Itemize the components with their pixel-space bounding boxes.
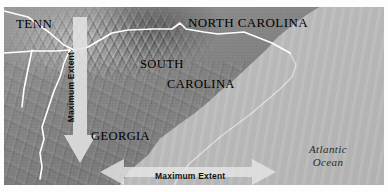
label-south-carolina-2: CAROLINA: [167, 77, 235, 92]
label-north-carolina: NORTH CAROLINA: [188, 15, 308, 31]
label-georgia: GEORGIA: [91, 129, 150, 144]
vertical-extent-label: Maximum Extent: [66, 52, 76, 122]
map-canvas: TENN NORTH CAROLINA SOUTH CAROLINA GEORG…: [4, 7, 384, 185]
label-south-carolina-1: SOUTH: [140, 57, 184, 72]
label-ocean-line2: Ocean: [313, 156, 344, 168]
label-atlantic-ocean: Atlantic Ocean: [309, 143, 347, 169]
horizontal-extent-label: Maximum Extent: [155, 171, 225, 181]
label-ocean-line1: Atlantic: [309, 143, 347, 155]
label-tennessee: TENN: [16, 16, 52, 32]
map-figure: TENN NORTH CAROLINA SOUTH CAROLINA GEORG…: [0, 0, 388, 192]
